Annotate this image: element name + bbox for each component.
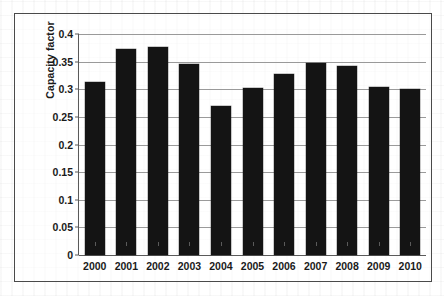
x-tick-mark bbox=[189, 242, 190, 246]
bar-2003 bbox=[179, 64, 199, 255]
bar-2009 bbox=[369, 87, 389, 256]
x-tick-mark bbox=[126, 242, 127, 246]
y-tick-label: 0.05 bbox=[53, 221, 73, 233]
chart-frame: Capacity factor 00.050.10.150.20.250.30.… bbox=[14, 13, 432, 282]
x-tick-label-2008: 2008 bbox=[335, 260, 358, 272]
x-tick-label-2005: 2005 bbox=[241, 260, 264, 272]
bar-2001 bbox=[116, 49, 136, 255]
bar-2004 bbox=[211, 106, 231, 255]
bar-2002 bbox=[148, 47, 168, 255]
x-tick-label-2000: 2000 bbox=[83, 260, 106, 272]
y-tick-label: 0.25 bbox=[53, 111, 73, 123]
bars-layer bbox=[79, 34, 426, 255]
x-tick-mark bbox=[253, 242, 254, 246]
x-tick-label-2003: 2003 bbox=[178, 260, 201, 272]
x-tick-label-2001: 2001 bbox=[115, 260, 138, 272]
y-tick-label: 0.15 bbox=[53, 166, 73, 178]
x-tick-mark bbox=[410, 242, 411, 246]
bar-2010 bbox=[400, 89, 420, 255]
x-axis-labels: 2000200120022003200420052006200720082009… bbox=[79, 260, 426, 276]
x-tick-mark bbox=[284, 242, 285, 246]
y-tick-label: 0.3 bbox=[58, 83, 73, 95]
bar-2007 bbox=[306, 63, 326, 255]
gridline-0 bbox=[79, 255, 426, 256]
y-tick-label: 0.2 bbox=[58, 139, 73, 151]
bar-2006 bbox=[274, 74, 294, 255]
y-tick-label: 0.35 bbox=[53, 56, 73, 68]
bar-2008 bbox=[337, 66, 357, 255]
x-tick-mark bbox=[95, 242, 96, 246]
x-tick-label-2009: 2009 bbox=[367, 260, 390, 272]
y-tick-label: 0 bbox=[67, 249, 73, 261]
x-tick-mark bbox=[316, 242, 317, 246]
x-tick-label-2002: 2002 bbox=[146, 260, 169, 272]
x-tick-mark bbox=[379, 242, 380, 246]
bar-2000 bbox=[85, 82, 105, 255]
x-tick-mark bbox=[347, 242, 348, 246]
y-tick-label: 0.1 bbox=[58, 194, 73, 206]
x-tick-label-2007: 2007 bbox=[304, 260, 327, 272]
x-tick-mark bbox=[158, 242, 159, 246]
plot-area: 00.050.10.150.20.250.30.350.4 bbox=[79, 34, 426, 255]
x-tick-label-2010: 2010 bbox=[399, 260, 422, 272]
y-tick-label: 0.4 bbox=[58, 28, 73, 40]
bar-2005 bbox=[243, 88, 263, 255]
x-tick-mark bbox=[221, 242, 222, 246]
x-tick-label-2006: 2006 bbox=[272, 260, 295, 272]
x-tick-label-2004: 2004 bbox=[209, 260, 232, 272]
